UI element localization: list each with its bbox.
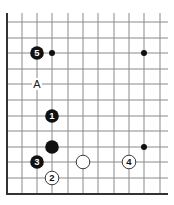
star-point-icon [141,50,147,56]
white-stone [76,155,90,169]
black-stone-3: 3 [30,155,44,169]
move-number: 4 [126,156,132,167]
white-stone-2: 2 [45,171,59,185]
go-board: 51324 A [0,0,174,205]
black-stone-1: 1 [45,109,59,123]
markers: A [32,78,42,90]
black-stone [45,140,59,154]
point-label-A: A [33,78,41,90]
black-stone-5: 5 [30,46,44,60]
white-stone-4: 4 [122,155,136,169]
move-number: 1 [49,110,55,121]
star-point-icon [141,144,147,150]
move-number: 5 [34,47,40,58]
move-number: 2 [49,172,54,183]
star-point-icon [49,50,55,56]
move-number: 3 [34,156,39,167]
